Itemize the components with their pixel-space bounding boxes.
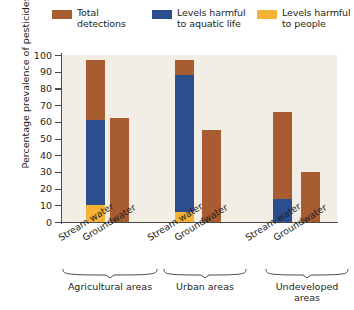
y-tick-60 — [55, 122, 61, 123]
plot-area — [62, 55, 337, 222]
legend-swatch-harmful-people — [257, 10, 277, 19]
y-tick-label-50: 50 — [12, 134, 52, 144]
legend-item-harmful-people: Levels harmful to people — [257, 8, 351, 29]
pesticide-prevalence-chart: Total detections Levels harmful to aquat… — [0, 0, 354, 310]
group-brace-0 — [62, 269, 158, 278]
legend-swatch-total-detections — [52, 10, 72, 19]
y-tick-40 — [55, 155, 61, 156]
group-brace-1 — [163, 269, 247, 278]
y-tick-label-20: 20 — [12, 184, 52, 194]
legend-label-harmful-people: Levels harmful to people — [282, 8, 351, 29]
y-tick-0 — [55, 222, 61, 223]
y-tick-label-10: 10 — [12, 201, 52, 211]
group-label-2: Undeveloped areas — [265, 281, 349, 303]
legend-label-harmful-aquatic-life: Levels harmful to aquatic life — [177, 8, 246, 29]
y-tick-label-30: 30 — [12, 167, 52, 177]
group-brace-2 — [265, 269, 349, 278]
y-tick-30 — [55, 172, 61, 173]
y-tick-label-80: 80 — [12, 84, 52, 94]
y-tick-label-0: 0 — [12, 218, 52, 228]
group-label-1: Urban areas — [163, 281, 247, 292]
y-tick-label-60: 60 — [12, 117, 52, 127]
legend-item-total-detections: Total detections — [52, 8, 126, 29]
y-tick-10 — [55, 205, 61, 206]
legend-item-harmful-aquatic-life: Levels harmful to aquatic life — [152, 8, 246, 29]
legend-label-total-detections: Total detections — [77, 8, 126, 29]
y-tick-90 — [55, 72, 61, 73]
y-tick-80 — [55, 88, 61, 89]
y-tick-20 — [55, 189, 61, 190]
y-tick-label-100: 100 — [12, 51, 52, 61]
legend-swatch-harmful-aquatic-life — [152, 10, 172, 19]
y-axis-line — [61, 53, 62, 224]
y-tick-label-70: 70 — [12, 101, 52, 111]
y-tick-label-40: 40 — [12, 151, 52, 161]
bar-2 — [175, 60, 194, 222]
chart-legend: Total detections Levels harmful to aquat… — [52, 8, 352, 44]
group-label-0: Agricultural areas — [62, 281, 158, 292]
y-tick-100 — [55, 55, 61, 56]
y-tick-50 — [55, 139, 61, 140]
y-tick-70 — [55, 105, 61, 106]
bar-segment-harmful-aquatic-life — [175, 75, 194, 222]
bar-0 — [86, 60, 105, 222]
y-tick-label-90: 90 — [12, 67, 52, 77]
